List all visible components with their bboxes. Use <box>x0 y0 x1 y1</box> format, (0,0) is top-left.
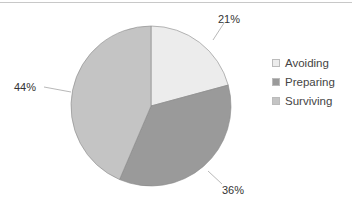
legend-label: Avoiding <box>285 57 329 69</box>
swatch-surviving <box>272 97 280 105</box>
swatch-avoiding <box>272 59 280 67</box>
legend-label: Surviving <box>285 95 332 107</box>
leader-preparing <box>208 171 222 184</box>
leader-surviving <box>44 87 71 92</box>
legend-item-preparing: Preparing <box>272 72 335 91</box>
leader-avoiding <box>213 23 224 40</box>
legend-item-avoiding: Avoiding <box>272 53 335 72</box>
legend: Avoiding Preparing Surviving <box>272 53 335 110</box>
legend-label: Preparing <box>285 76 335 88</box>
legend-item-surviving: Surviving <box>272 91 335 110</box>
label-avoiding: 21% <box>218 13 240 25</box>
label-surviving: 44% <box>14 81 36 93</box>
swatch-preparing <box>272 78 280 86</box>
label-preparing: 36% <box>222 184 244 196</box>
